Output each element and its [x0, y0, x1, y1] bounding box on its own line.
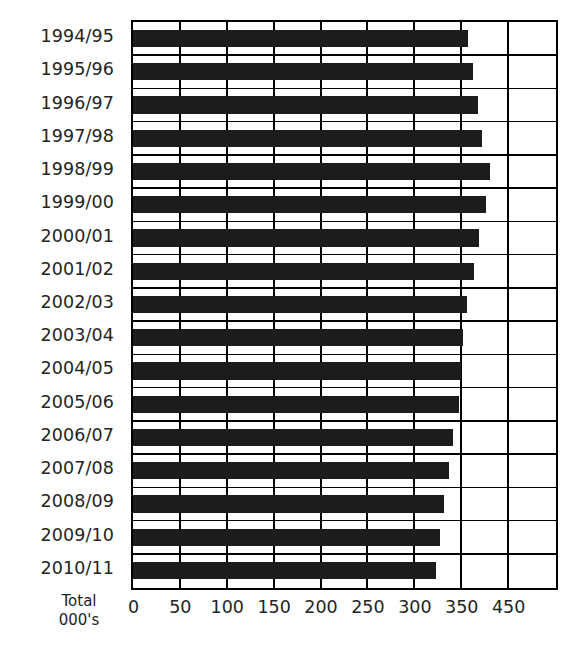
- gridline-horizontal: [133, 287, 556, 289]
- bar: [133, 296, 467, 313]
- bar-chart: 1994/951995/961996/971997/981998/991999/…: [0, 0, 587, 661]
- category-axis-label: 2004/05: [0, 359, 122, 378]
- axis-caption-line2: 000's: [36, 611, 122, 630]
- gridline-horizontal: [133, 54, 556, 56]
- bar: [133, 130, 482, 147]
- plot-area: [131, 20, 558, 590]
- value-axis-label: 200: [304, 596, 337, 618]
- gridline-horizontal: [133, 354, 556, 356]
- bar: [133, 429, 453, 446]
- category-axis-label: 2002/03: [0, 293, 122, 312]
- gridline-horizontal: [133, 553, 556, 555]
- category-axis-label: 2007/08: [0, 459, 122, 478]
- value-axis-label: 50: [169, 596, 191, 618]
- axis-caption: Total 000's: [36, 592, 122, 630]
- category-axis-label: 2009/10: [0, 526, 122, 545]
- bar: [133, 495, 444, 512]
- value-axis-label: 300: [398, 596, 431, 618]
- value-axis-label: 100: [211, 596, 244, 618]
- value-axis-label: 250: [351, 596, 384, 618]
- value-axis-label: 350: [445, 596, 478, 618]
- bar: [133, 96, 478, 113]
- gridline-vertical: [507, 22, 509, 588]
- category-axis-label: 1997/98: [0, 127, 122, 146]
- category-axis-label: 2005/06: [0, 393, 122, 412]
- bar: [133, 163, 490, 180]
- category-axis-label: 2006/07: [0, 426, 122, 445]
- category-axis-label: 2000/01: [0, 227, 122, 246]
- bar: [133, 63, 473, 80]
- category-axis-label: 1999/00: [0, 193, 122, 212]
- value-axis-label: 0: [128, 596, 139, 618]
- value-axis-label: 450: [492, 596, 525, 618]
- category-axis-label: 1995/96: [0, 60, 122, 79]
- category-axis-label: 1996/97: [0, 94, 122, 113]
- category-axis-labels: 1994/951995/961996/971997/981998/991999/…: [0, 20, 122, 590]
- bar: [133, 196, 486, 213]
- category-axis-label: 2001/02: [0, 260, 122, 279]
- category-axis-label: 2010/11: [0, 559, 122, 578]
- gridline-horizontal: [133, 320, 556, 322]
- gridline-horizontal: [133, 154, 556, 156]
- gridline-horizontal: [133, 387, 556, 389]
- axis-caption-line1: Total: [36, 592, 122, 611]
- category-axis-label: 2003/04: [0, 326, 122, 345]
- gridline-horizontal: [133, 420, 556, 422]
- gridline-horizontal: [133, 221, 556, 223]
- gridline-horizontal: [133, 187, 556, 189]
- bar: [133, 529, 440, 546]
- value-axis-label: 150: [257, 596, 290, 618]
- bar: [133, 396, 459, 413]
- gridline-horizontal: [133, 487, 556, 489]
- bar: [133, 30, 468, 47]
- gridline-horizontal: [133, 453, 556, 455]
- category-axis-label: 1998/99: [0, 160, 122, 179]
- bar: [133, 263, 474, 280]
- gridline-horizontal: [133, 121, 556, 123]
- gridline-horizontal: [133, 520, 556, 522]
- category-axis-label: 1994/95: [0, 27, 122, 46]
- gridline-horizontal: [133, 254, 556, 256]
- gridline-horizontal: [133, 88, 556, 90]
- category-axis-label: 2008/09: [0, 492, 122, 511]
- bar: [133, 362, 461, 379]
- bar: [133, 229, 479, 246]
- bar: [133, 462, 449, 479]
- bar: [133, 329, 463, 346]
- bar: [133, 562, 436, 579]
